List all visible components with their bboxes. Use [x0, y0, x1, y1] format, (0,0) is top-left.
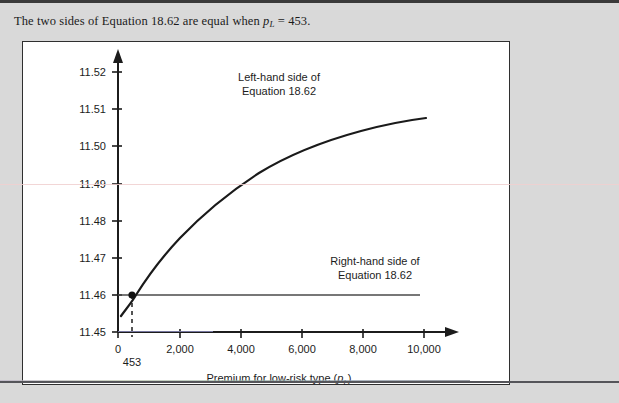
caption-prefix: The two sides of Equation 18.62 are equa… [14, 14, 263, 28]
x-tick-label: 8,000 [349, 343, 377, 355]
y-tick-label: 11.52 [79, 66, 106, 78]
y-axis [113, 49, 123, 332]
intersection-point-marker [128, 291, 135, 298]
y-tick-label: 11.50 [79, 140, 106, 152]
y-tick-label: 11.46 [79, 289, 106, 301]
left-hand-side-annotation: Left-hand side of Equation 18.62 [238, 71, 321, 97]
y-tick-label: 11.47 [79, 252, 106, 264]
x-axis [118, 327, 459, 337]
scan-artifact-blue-line [118, 331, 213, 332]
right-hand-side-annotation: Right-hand side of Equation 18.62 [330, 255, 420, 281]
figure-bottom-rule [0, 381, 619, 383]
y-axis-arrow-icon [113, 49, 123, 63]
caption-suffix: = 453. [275, 14, 311, 28]
figure-caption: The two sides of Equation 18.62 are equa… [14, 14, 574, 29]
rhs-annotation-line-2: Equation 18.62 [338, 269, 412, 281]
scan-artifact-pink-line [0, 184, 619, 185]
lhs-annotation-line-2: Equation 18.62 [242, 85, 316, 97]
rhs-annotation-line-1: Right-hand side of [330, 255, 420, 267]
x-tick-label: 2,000 [166, 343, 194, 355]
y-tick-label: 11.51 [79, 103, 106, 115]
lhs-annotation-line-1: Left-hand side of [238, 71, 321, 83]
figure-page: The two sides of Equation 18.62 are equa… [0, 0, 619, 403]
left-hand-side-curve [121, 118, 426, 316]
x-axis-arrow-icon [445, 327, 459, 337]
x-tick-label: 10,000 [407, 343, 441, 355]
x-tick-label: 0 [115, 343, 121, 355]
chart-svg: 11.52 11.51 11.50 11.49 11.48 11.47 11.4… [22, 41, 510, 385]
x-tick-labels: 0 2,000 4,000 6,000 8,000 10,000 [115, 343, 441, 355]
intersection-x-label: 453 [123, 356, 141, 368]
y-tick-label: 11.48 [79, 215, 106, 227]
y-tick-labels: 11.52 11.51 11.50 11.49 11.48 11.47 11.4… [79, 66, 106, 338]
x-tick-label: 4,000 [227, 343, 255, 355]
y-tick-label: 11.45 [79, 326, 106, 338]
x-tick-label: 6,000 [288, 343, 316, 355]
x-axis-title: Premium for low-risk type (pL) [206, 372, 351, 385]
figure-top-rule [0, 0, 619, 3]
